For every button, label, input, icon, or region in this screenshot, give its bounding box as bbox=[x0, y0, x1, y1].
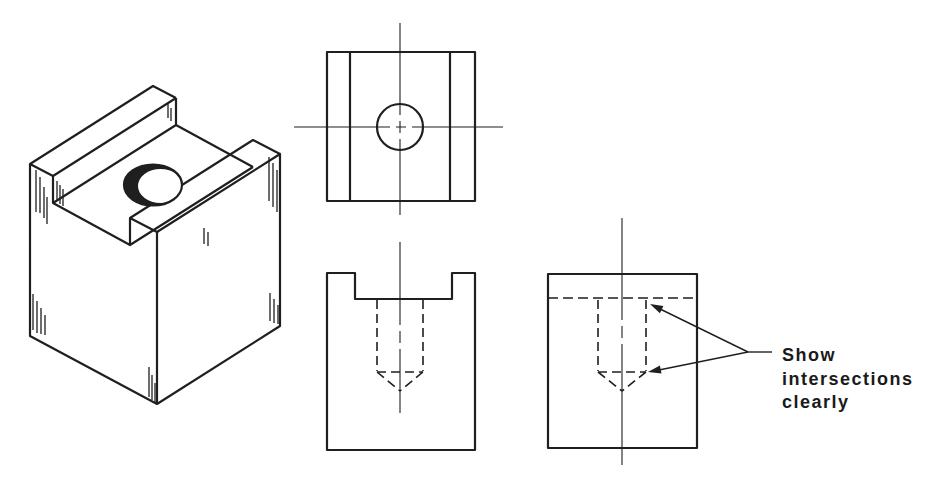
annotation-line-1: Show bbox=[782, 344, 914, 368]
leader-line-upper bbox=[656, 307, 748, 352]
leader-annotation bbox=[648, 304, 772, 373]
technical-drawing-page: Show intersections clearly bbox=[0, 0, 932, 491]
iso-hole bbox=[124, 165, 183, 206]
front-view bbox=[327, 242, 475, 450]
front-view-outline bbox=[327, 273, 475, 450]
top-view bbox=[294, 23, 503, 215]
arrowhead-icon bbox=[648, 366, 662, 374]
drawing-canvas bbox=[0, 0, 932, 491]
side-view bbox=[548, 218, 697, 465]
annotation-line-2: intersections bbox=[782, 368, 914, 392]
annotation-text: Show intersections clearly bbox=[782, 344, 914, 415]
leader-line-lower bbox=[654, 352, 748, 371]
arrowhead-icon bbox=[650, 304, 663, 313]
isometric-view bbox=[30, 86, 280, 404]
annotation-line-3: clearly bbox=[782, 391, 914, 415]
